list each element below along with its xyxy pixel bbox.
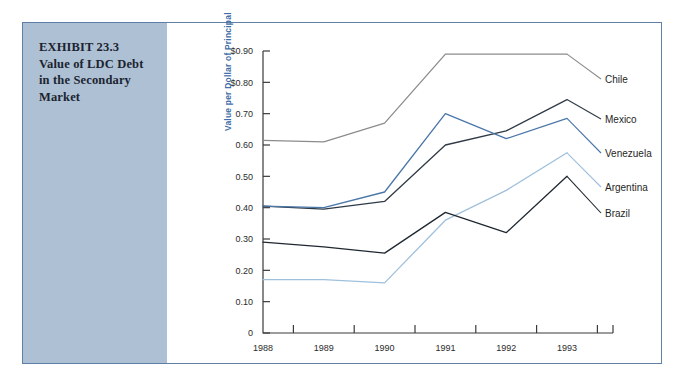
y-tick-label: $0.80	[230, 78, 253, 88]
y-tick-label: 0.70	[235, 109, 253, 119]
series-line-chile	[263, 54, 567, 142]
x-tick-label: 1990	[375, 343, 395, 353]
exhibit-caption-text: EXHIBIT 23.3 Value of LDC Debt in the Se…	[39, 39, 159, 105]
y-tick-label: 0.50	[235, 172, 253, 182]
caption-line-2: Value of LDC Debt	[39, 56, 159, 73]
y-tick-label: 0.40	[235, 203, 253, 213]
y-tick-label: $0.90	[230, 46, 253, 56]
series-label-venezuela: Venezuela	[605, 148, 652, 159]
x-tick-label: 1992	[496, 343, 516, 353]
series-label-chile: Chile	[605, 74, 628, 85]
series-label-mexico: Mexico	[605, 114, 637, 125]
chart-plot-svg: $0.90$0.800.700.600.500.400.300.200.100 …	[167, 23, 663, 363]
line-chart: Value per Dollar of Principal $0.90$0.80…	[167, 23, 661, 363]
series-label-argentina: Argentina	[605, 182, 648, 193]
caption-line-4: Market	[39, 89, 159, 106]
exhibit-figure: EXHIBIT 23.3 Value of LDC Debt in the Se…	[22, 22, 662, 364]
series-line-mexico	[263, 100, 567, 210]
series-label-group: ChileMexicoVenezuelaArgentinaBrazil	[605, 74, 652, 219]
exhibit-caption-panel: EXHIBIT 23.3 Value of LDC Debt in the Se…	[23, 23, 167, 363]
y-axis-ticks: $0.90$0.800.700.600.500.400.300.200.100	[230, 46, 270, 338]
caption-line-1: EXHIBIT 23.3	[39, 39, 159, 56]
x-axis-ticks	[293, 325, 613, 333]
data-series-group	[263, 54, 601, 283]
x-tick-label: 1991	[435, 343, 455, 353]
y-tick-label: 0.30	[235, 234, 253, 244]
x-tick-label: 1988	[253, 343, 273, 353]
series-leader-venezuela	[567, 118, 601, 153]
y-tick-label: 0.20	[235, 266, 253, 276]
axis-lines	[263, 51, 613, 333]
y-tick-label: 0.10	[235, 297, 253, 307]
series-label-brazil: Brazil	[605, 208, 630, 219]
series-leader-mexico	[567, 100, 601, 119]
series-leader-chile	[567, 54, 601, 79]
x-axis-labels: 198819891990199119921993	[253, 343, 577, 353]
series-line-venezuela	[263, 114, 567, 208]
x-tick-label: 1993	[557, 343, 577, 353]
x-tick-label: 1989	[314, 343, 334, 353]
caption-line-3: in the Secondary	[39, 72, 159, 89]
y-tick-label: 0.60	[235, 140, 253, 150]
y-tick-label: 0	[248, 328, 253, 338]
series-line-brazil	[263, 176, 567, 253]
